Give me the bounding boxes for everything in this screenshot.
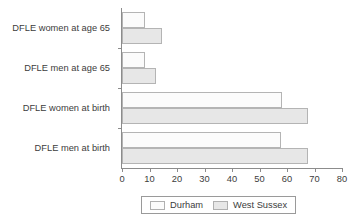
bar-dfle-women-at-birth-durham [122,92,282,108]
value-tick-80 [342,168,343,172]
value-tick-60 [287,168,288,172]
value-tick-label-60: 60 [282,174,292,185]
plot-area: 01020304050607080 [122,8,342,168]
category-label-dfle-men-at-birth: DFLE men at birth [0,143,110,153]
bar-dfle-women-at-age-65-durham [122,12,145,28]
legend-swatch-icon [150,201,165,210]
value-tick-label-0: 0 [119,174,124,185]
legend-label: Durham [170,200,203,210]
legend-item-west-sussex[interactable]: West Sussex [213,200,287,210]
bar-dfle-men-at-age-65-durham [122,52,145,68]
category-label-dfle-women-at-birth: DFLE women at birth [0,103,110,113]
legend-label: West Sussex [233,200,287,210]
value-tick-label-70: 70 [309,174,319,185]
value-tick-label-50: 50 [254,174,264,185]
value-tick-20 [177,168,178,172]
legend-item-durham[interactable]: Durham [150,200,203,210]
value-tick-label-10: 10 [144,174,154,185]
value-tick-label-80: 80 [337,174,347,185]
value-tick-40 [232,168,233,172]
value-tick-70 [315,168,316,172]
value-tick-10 [150,168,151,172]
legend-swatch-icon [213,201,228,210]
category-tick [118,48,122,49]
value-tick-0 [122,168,123,172]
category-label-dfle-men-at-age-65: DFLE men at age 65 [0,63,110,73]
value-tick-50 [260,168,261,172]
category-tick [118,88,122,89]
value-tick-label-30: 30 [199,174,209,185]
value-tick-label-20: 20 [172,174,182,185]
bar-dfle-women-at-birth-west-sussex [122,108,308,124]
bar-dfle-men-at-birth-west-sussex [122,148,308,164]
chart-legend: DurhamWest Sussex [141,196,296,214]
category-tick [118,128,122,129]
bar-dfle-men-at-birth-durham [122,132,281,148]
value-tick-label-40: 40 [227,174,237,185]
dfle-bar-chart: DFLE women at age 65DFLE men at age 65DF… [0,0,356,221]
category-label-dfle-women-at-age-65: DFLE women at age 65 [0,23,110,33]
bar-dfle-women-at-age-65-west-sussex [122,28,162,44]
value-tick-30 [205,168,206,172]
bar-dfle-men-at-age-65-west-sussex [122,68,156,84]
category-axis-labels: DFLE women at age 65DFLE men at age 65DF… [0,8,114,168]
